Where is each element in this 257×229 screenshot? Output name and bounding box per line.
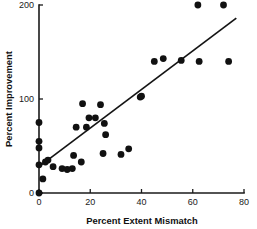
data-point [178, 57, 185, 64]
y-axis-tick-labels: 0100200 [19, 0, 34, 198]
data-point [70, 152, 77, 159]
data-point [36, 119, 43, 126]
data-point [118, 151, 125, 158]
data-point [101, 120, 108, 127]
data-point [92, 114, 99, 121]
data-point [220, 2, 227, 9]
x-tick-label-40: 40 [136, 197, 146, 207]
x-tick-label-0: 0 [36, 197, 41, 207]
x-axis-tick-labels: 020406080 [36, 197, 249, 207]
data-point [36, 144, 43, 151]
x-tick-label-60: 60 [188, 197, 198, 207]
data-point [39, 176, 46, 183]
data-point [160, 55, 167, 62]
data-point [36, 138, 43, 145]
x-tick-label-20: 20 [85, 197, 95, 207]
y-tick-label-100: 100 [19, 94, 34, 104]
data-point [45, 157, 52, 164]
data-point [36, 161, 43, 168]
regression-line [39, 18, 236, 167]
data-point [79, 100, 86, 107]
data-point [138, 93, 145, 100]
data-point [36, 190, 43, 197]
data-point [225, 58, 232, 65]
data-point [194, 2, 201, 9]
data-point [97, 101, 104, 108]
scatter-plot-figure: 020406080 0100200 Percent Extent Mismatc… [0, 0, 257, 229]
data-points-group [36, 2, 232, 197]
x-tick-label-80: 80 [239, 197, 249, 207]
data-point [196, 58, 203, 65]
data-point [86, 114, 93, 121]
data-point [83, 124, 90, 131]
data-point [102, 131, 109, 138]
data-point [78, 159, 85, 166]
data-point [151, 58, 158, 65]
y-axis-title: Percent Improvement [3, 51, 14, 147]
y-tick-label-0: 0 [29, 188, 34, 198]
data-point [100, 150, 107, 157]
data-point [73, 124, 80, 131]
data-point [69, 165, 76, 172]
data-point [50, 163, 57, 170]
data-point [125, 145, 132, 152]
x-axis-title: Percent Extent Mismatch [86, 215, 198, 226]
plot-canvas: 020406080 0100200 Percent Extent Mismatc… [0, 0, 257, 229]
y-tick-label-200: 200 [19, 0, 34, 10]
